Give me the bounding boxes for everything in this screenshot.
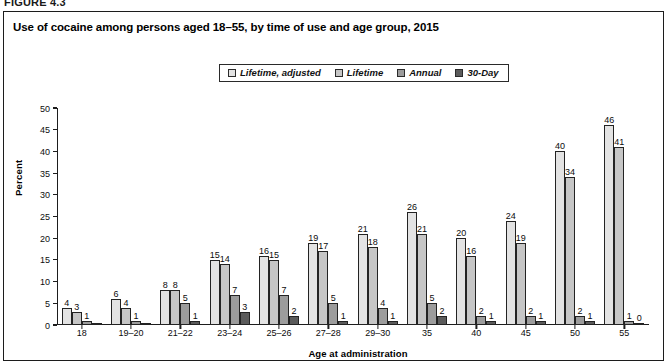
legend-label: Annual [409, 68, 441, 78]
bar[interactable]: 2 [289, 316, 299, 325]
bar[interactable]: 40 [555, 151, 565, 325]
bar-slot: 2 [289, 108, 299, 325]
bar-slot: 2 [437, 108, 447, 325]
bar[interactable]: 4 [378, 308, 388, 325]
bar[interactable]: 26 [407, 212, 417, 325]
bar[interactable]: 1 [486, 321, 496, 325]
bar-slot: 0 [634, 108, 644, 325]
bar[interactable]: 21 [417, 234, 427, 325]
bar[interactable]: 6 [111, 299, 121, 325]
bar[interactable]: 8 [160, 290, 170, 325]
bar[interactable]: 19 [308, 243, 318, 325]
bar[interactable]: 7 [279, 295, 289, 325]
bar[interactable]: 1 [536, 321, 546, 325]
bar[interactable]: 1 [388, 321, 398, 325]
x-axis-tick-label: 29–30 [365, 329, 390, 338]
bar-value-label: 21 [417, 225, 427, 234]
bar[interactable]: 24 [506, 221, 516, 325]
square-swatch-icon [397, 69, 405, 77]
bar[interactable]: 5 [180, 303, 190, 325]
x-axis-tick-label: 35 [422, 329, 432, 338]
bar-slot: 46 [604, 108, 614, 325]
bar[interactable]: 16 [466, 256, 476, 325]
bar-value-label: 4 [123, 299, 128, 308]
bar-value-label: 4 [380, 299, 385, 308]
bar[interactable]: 7 [230, 295, 240, 325]
bar-value-label: 1 [390, 312, 395, 321]
bar[interactable]: 1 [585, 321, 595, 325]
bar-value-label: 4 [64, 299, 69, 308]
bar[interactable]: 0 [634, 323, 644, 325]
bar-slot: 40 [555, 108, 565, 325]
bar[interactable]: 1 [190, 321, 200, 325]
legend-item-annual: Annual [397, 68, 441, 78]
y-axis-tick-label: 25 [40, 213, 50, 222]
bar-group: 26215235 [402, 108, 451, 325]
bar[interactable]: 1 [82, 321, 92, 325]
y-axis-tick-label: 20 [40, 234, 50, 243]
bar[interactable]: 3 [240, 312, 250, 325]
bar[interactable]: 16 [259, 256, 269, 325]
bar[interactable]: 5 [427, 303, 437, 325]
bar[interactable]: 4 [121, 308, 131, 325]
x-axis-tick-label: 23–24 [217, 329, 242, 338]
bar[interactable]: 15 [269, 260, 279, 325]
bar[interactable]: 5 [328, 303, 338, 325]
bar[interactable]: 21 [358, 234, 368, 325]
y-axis-tick-label: 35 [40, 169, 50, 178]
bar-slot: 16 [466, 108, 476, 325]
bar[interactable]: 14 [220, 264, 230, 325]
bar[interactable]: 1 [338, 321, 348, 325]
bar-slot: 8 [170, 108, 180, 325]
legend-label: 30-Day [467, 68, 498, 78]
bar-value-label: 5 [183, 294, 188, 303]
bar-value-label: 0 [637, 314, 642, 323]
bar[interactable]: 1 [624, 321, 634, 325]
bar-slot: 2 [526, 108, 536, 325]
bar-value-label: 1 [538, 312, 543, 321]
bar-group: 15147323–24 [205, 108, 254, 325]
y-axis-tick-label: 50 [40, 104, 50, 113]
bar[interactable]: 41 [614, 147, 624, 325]
bar-slot: 1 [486, 108, 496, 325]
bar[interactable]: 4 [62, 308, 72, 325]
bar[interactable]: 17 [318, 251, 328, 325]
bar-group-bars: 211841 [353, 108, 402, 325]
bar[interactable] [92, 323, 102, 325]
bar-value-label: 20 [456, 229, 466, 238]
bar-slot: 3 [240, 108, 250, 325]
bar[interactable]: 18 [368, 247, 378, 325]
plot-area: 05101520253035404550 4311864119–20885121… [57, 108, 649, 325]
bar-slot: 17 [318, 108, 328, 325]
bar[interactable]: 34 [565, 177, 575, 325]
y-axis-tick-label: 0 [45, 321, 50, 330]
bar-slot: 1 [82, 108, 92, 325]
bar-slot: 1 [388, 108, 398, 325]
bar[interactable] [141, 323, 151, 325]
bar[interactable]: 2 [437, 316, 447, 325]
square-swatch-icon [228, 69, 236, 77]
bar-groups: 4311864119–20885121–2215147323–241615722… [57, 108, 649, 325]
bar[interactable]: 8 [170, 290, 180, 325]
bar-value-label: 14 [220, 255, 230, 264]
bar[interactable]: 19 [516, 243, 526, 325]
bar[interactable]: 15 [210, 260, 220, 325]
bar-group-bars: 8851 [156, 108, 205, 325]
bar-value-label: 15 [210, 251, 220, 260]
bar[interactable]: 3 [72, 312, 82, 325]
x-axis-tick-label: 45 [521, 329, 531, 338]
bar-group: 21184129–30 [353, 108, 402, 325]
bar[interactable]: 46 [604, 125, 614, 325]
bar[interactable]: 2 [575, 316, 585, 325]
legend-item-lifetime-adjusted: Lifetime, adjusted [228, 68, 321, 78]
bar-slot: 19 [308, 108, 318, 325]
bar-slot: 1 [585, 108, 595, 325]
bar[interactable]: 2 [526, 316, 536, 325]
bar[interactable]: 20 [456, 238, 466, 325]
legend-item-lifetime: Lifetime [335, 68, 383, 78]
bar[interactable]: 2 [476, 316, 486, 325]
y-axis-tick-label: 15 [40, 256, 50, 265]
bar-slot: 5 [427, 108, 437, 325]
bar-slot: 1 [338, 108, 348, 325]
bar[interactable]: 1 [131, 321, 141, 325]
